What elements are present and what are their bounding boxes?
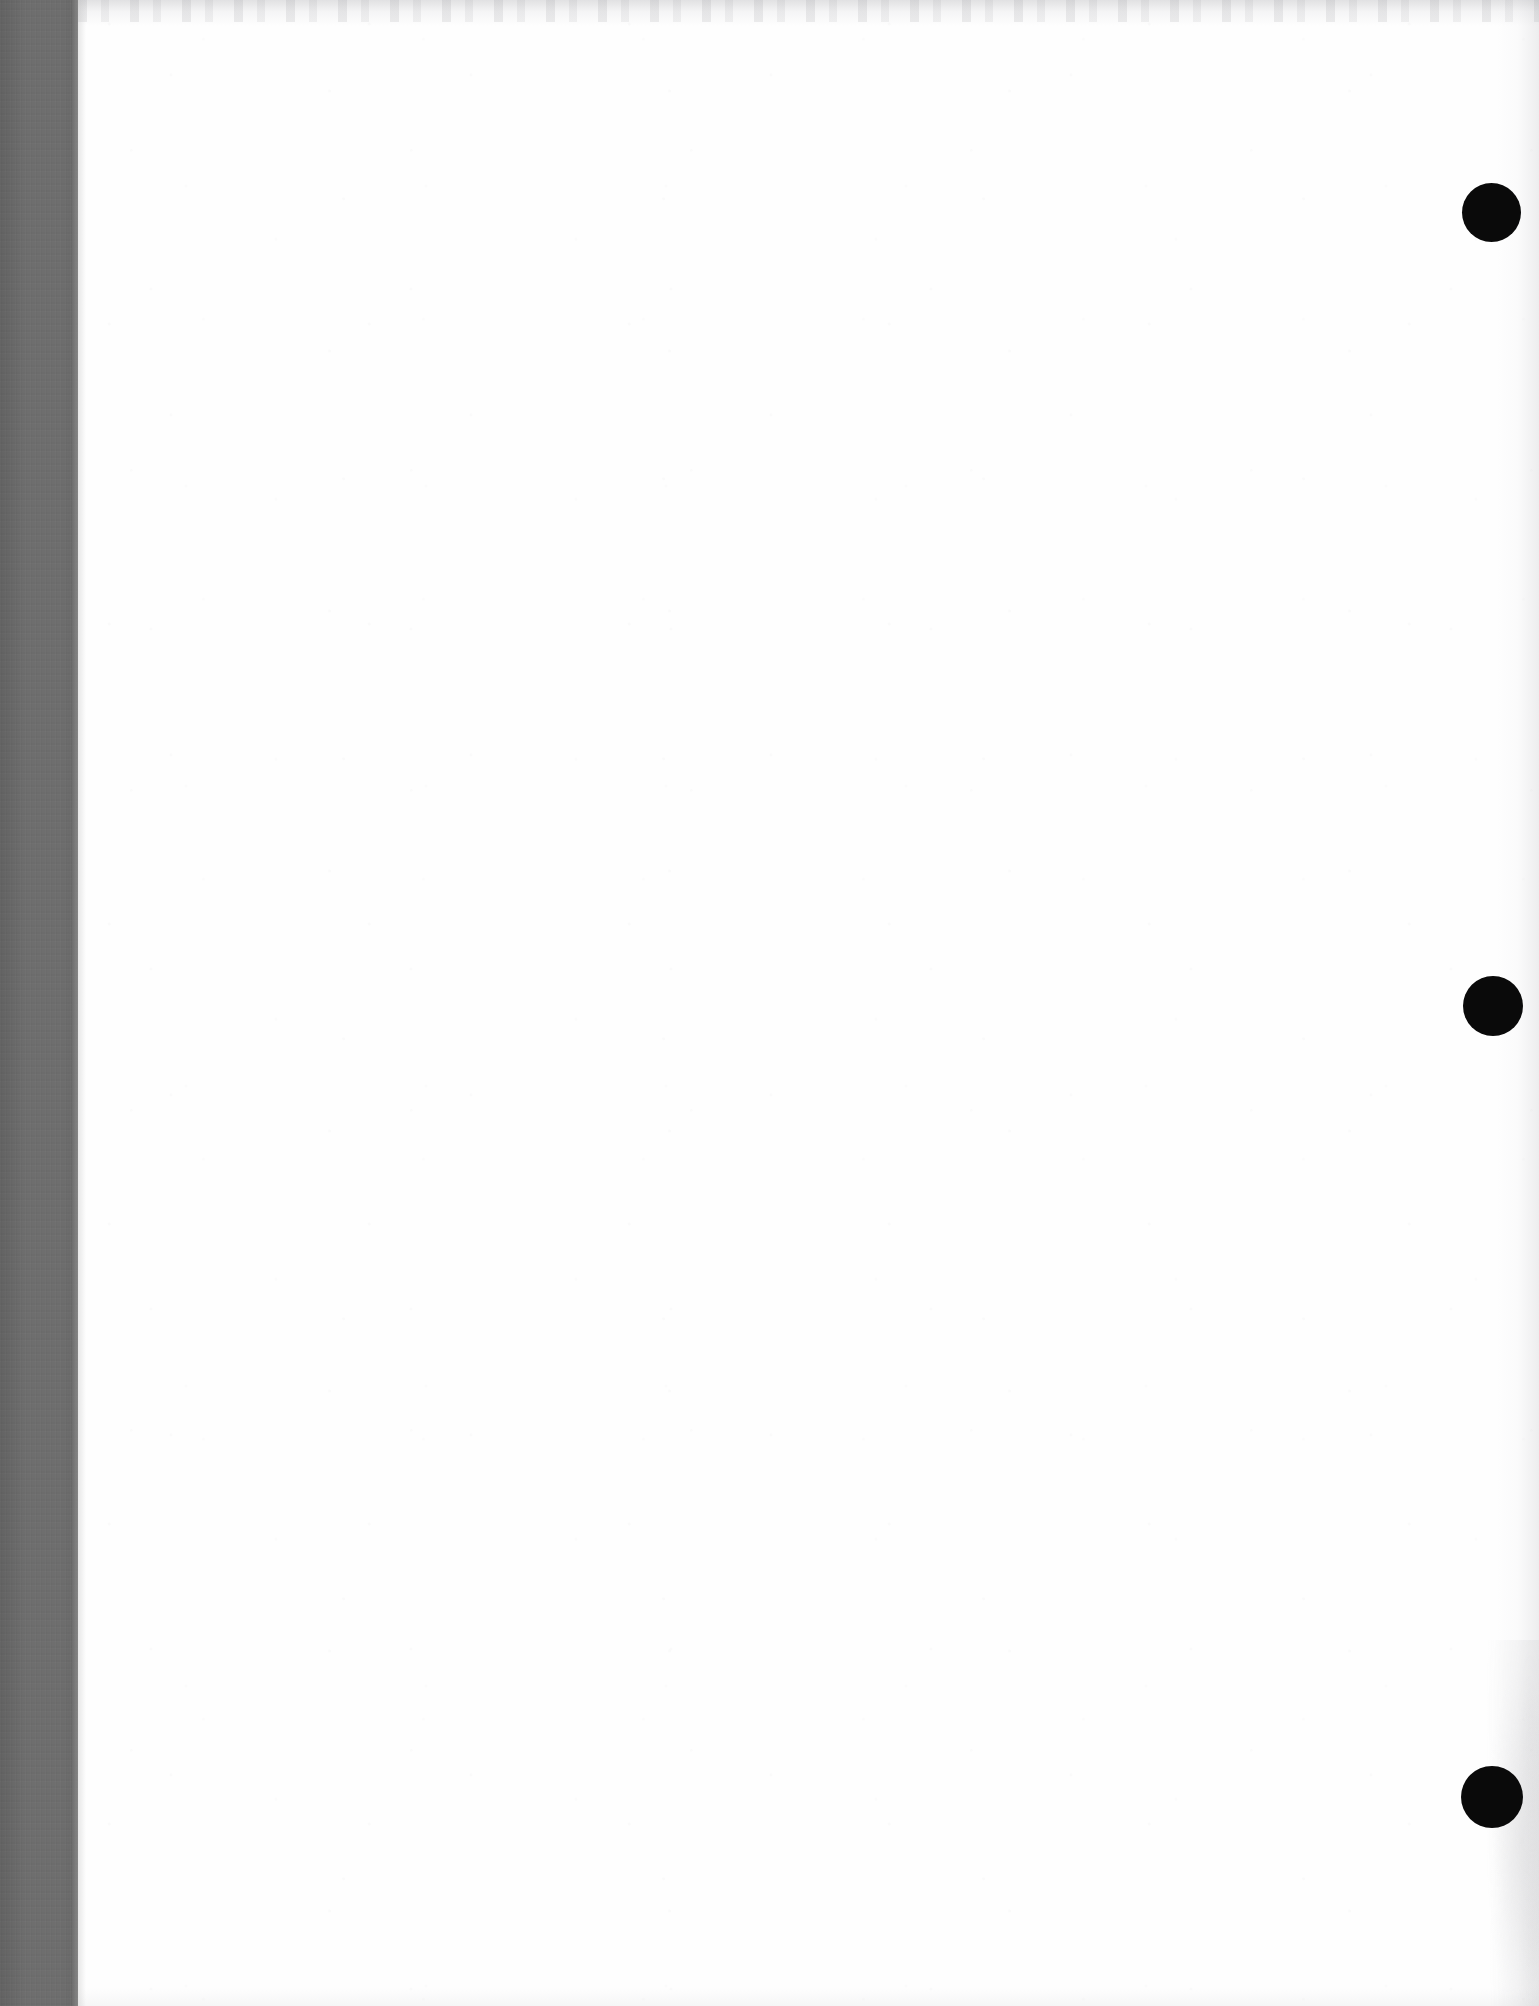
gutter-band-shading (0, 0, 78, 2006)
bottom-scan-edge-fade (78, 1988, 1539, 2006)
gutter-band-feather-edge (72, 0, 86, 2006)
binding-mark-bottom (1461, 1766, 1523, 1828)
left-scanner-gutter-band (0, 0, 78, 2006)
scanned-page (0, 0, 1539, 2006)
top-scan-edge-streaks (78, 0, 1539, 22)
binding-mark-middle (1463, 976, 1523, 1036)
binding-mark-top (1462, 183, 1521, 242)
paper-surface (0, 0, 1539, 2006)
